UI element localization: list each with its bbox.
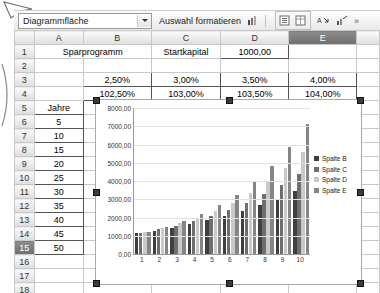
bar[interactable] [293, 191, 296, 254]
row-header-4[interactable]: 4 [15, 87, 35, 101]
data-table-icon[interactable] [293, 13, 308, 28]
row-header-2[interactable]: 2 [15, 59, 35, 73]
cell-A4[interactable] [34, 87, 83, 101]
row-header-15[interactable]: 15 [15, 241, 35, 255]
legend-item[interactable]: Spalte C [314, 166, 358, 173]
column-header-d[interactable]: D [221, 31, 289, 45]
bar[interactable] [249, 193, 252, 254]
format-selection-label[interactable]: Auswahl formatieren [159, 16, 241, 26]
cell-A5[interactable]: Jahre [34, 101, 83, 115]
legend-item[interactable]: Spalte D [314, 176, 358, 183]
bar[interactable] [161, 228, 164, 254]
row-header-14[interactable]: 14 [15, 227, 35, 241]
cell-B2[interactable] [83, 59, 151, 73]
row-header-16[interactable]: 16 [15, 255, 35, 269]
chevron-down-icon[interactable] [137, 15, 151, 27]
cell-A11[interactable]: 30 [34, 185, 83, 199]
cell-A9[interactable]: 20 [34, 157, 83, 171]
bar[interactable] [205, 220, 208, 254]
bar[interactable] [276, 199, 279, 254]
toolbar-overflow-button[interactable]: » [354, 16, 359, 26]
bar[interactable] [280, 185, 283, 254]
cell-B3[interactable]: 2,50% [83, 73, 151, 87]
chart-legend[interactable]: Spalte BSpalte CSpalte DSpalte E [314, 155, 358, 197]
bar[interactable] [192, 221, 195, 254]
plot-area[interactable] [133, 108, 310, 255]
cell-E3[interactable]: 4,00% [289, 73, 357, 87]
bar[interactable] [258, 205, 261, 254]
bar[interactable] [165, 227, 168, 254]
cell-E2[interactable] [289, 59, 357, 73]
column-header-b[interactable]: B [83, 31, 151, 45]
row-header-17[interactable]: 17 [15, 269, 35, 283]
cell-A3[interactable] [34, 73, 83, 87]
legend-toggle-icon[interactable] [277, 13, 292, 28]
cell-A15[interactable]: 50 [34, 241, 83, 255]
chart-element-selector[interactable]: Diagrammfläche [18, 13, 152, 29]
axis-format-icon[interactable] [334, 13, 349, 28]
cell-F1[interactable] [357, 45, 380, 59]
bar[interactable] [182, 221, 185, 254]
bar[interactable] [174, 226, 177, 254]
row-header-9[interactable]: 9 [15, 157, 35, 171]
row-header-10[interactable]: 10 [15, 171, 35, 185]
cell-C2[interactable] [151, 59, 220, 73]
column-header-e[interactable]: E [289, 31, 357, 45]
cell-A10[interactable]: 25 [34, 171, 83, 185]
row-header-18[interactable]: 18 [15, 283, 35, 293]
bar[interactable] [231, 203, 234, 254]
bar[interactable] [262, 194, 265, 254]
row-header-13[interactable]: 13 [15, 213, 35, 227]
cell-A14[interactable]: 45 [34, 227, 83, 241]
row-header-6[interactable]: 6 [15, 115, 35, 129]
cell-A1[interactable]: Sparprogramm [34, 45, 151, 59]
cell-F2[interactable] [357, 59, 380, 73]
bar[interactable] [153, 231, 156, 254]
bar[interactable] [270, 166, 273, 254]
cell-D3[interactable]: 3,50% [221, 73, 289, 87]
cell-A12[interactable]: 35 [34, 199, 83, 213]
row-header-7[interactable]: 7 [15, 129, 35, 143]
chart-type-icon[interactable] [245, 13, 260, 28]
bar[interactable] [157, 229, 160, 254]
cell-F3[interactable] [357, 73, 380, 87]
bar[interactable] [245, 203, 248, 254]
row-header-11[interactable]: 11 [15, 185, 35, 199]
cell-A18[interactable] [34, 283, 83, 293]
cell-C3[interactable]: 3,00% [151, 73, 220, 87]
cell-A2[interactable] [34, 59, 83, 73]
cell-A13[interactable]: 40 [34, 213, 83, 227]
cell-A16[interactable] [34, 255, 83, 269]
bar[interactable] [200, 214, 203, 254]
cell-C1[interactable]: Startkapital [151, 45, 220, 59]
bar[interactable] [235, 195, 238, 254]
x-tick-label: 5 [203, 256, 221, 263]
cell-E1[interactable] [289, 45, 357, 59]
cell-A6[interactable]: 5 [34, 115, 83, 129]
row-header-12[interactable]: 12 [15, 199, 35, 213]
bar[interactable] [188, 224, 191, 254]
bar[interactable] [227, 210, 230, 254]
cell-D1[interactable]: 1000,00 [221, 45, 289, 59]
cell-A17[interactable] [34, 269, 83, 283]
row-header-5[interactable]: 5 [15, 101, 35, 115]
bar[interactable] [301, 152, 304, 254]
row-header-8[interactable]: 8 [15, 143, 35, 157]
row-header-3[interactable]: 3 [15, 73, 35, 87]
bar[interactable] [178, 223, 181, 254]
cell-A8[interactable]: 15 [34, 143, 83, 157]
bar[interactable] [170, 228, 173, 254]
bar[interactable] [218, 205, 221, 254]
column-header-a[interactable]: A [34, 31, 83, 45]
text-angle-icon[interactable]: A [315, 13, 330, 28]
embedded-chart-object[interactable]: 8000,007000,006000,005000,004000,003000,… [95, 99, 362, 285]
column-header-f[interactable] [357, 31, 380, 45]
cell-A7[interactable]: 10 [34, 129, 83, 143]
select-all-corner[interactable] [15, 31, 35, 45]
legend-item[interactable]: Spalte B [314, 155, 358, 162]
bar[interactable] [297, 174, 300, 254]
column-header-c[interactable]: C [151, 31, 220, 45]
row-header-1[interactable]: 1 [15, 45, 35, 59]
cell-D2[interactable] [221, 59, 289, 73]
legend-item[interactable]: Spalte E [314, 187, 358, 194]
